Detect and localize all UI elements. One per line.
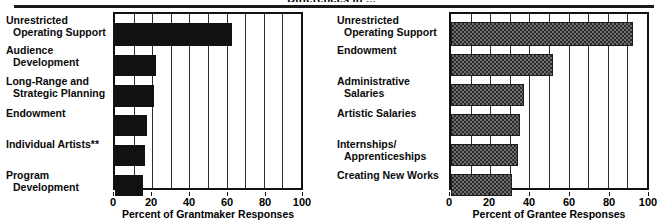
category-label-line: Long-Range and: [6, 75, 89, 87]
axis-tick-label: 60: [563, 196, 575, 208]
axis-tick-label: 0: [446, 196, 452, 208]
category-label-line: Operating Support: [6, 26, 106, 38]
bar: [451, 114, 520, 136]
category-label: Artistic Salaries: [337, 107, 416, 119]
category-label: Long-Range andStrategic Planning: [6, 75, 105, 100]
axis-tick-label: 40: [183, 196, 195, 208]
bar: [115, 23, 232, 46]
category-label-line: Apprenticeships: [337, 150, 426, 162]
category-label-line: Operating Support: [337, 26, 437, 38]
category-label-line: Strategic Planning: [6, 87, 105, 99]
category-label: Internships/Apprenticeships: [337, 138, 426, 163]
axis-tick-label: 0: [110, 196, 116, 208]
bar: [115, 175, 143, 196]
bar: [115, 55, 156, 76]
axis-tick-label: 80: [603, 196, 615, 208]
category-label: ProgramDevelopment: [6, 169, 79, 194]
axis-tick-label: 100: [639, 196, 657, 208]
bar: [451, 22, 633, 46]
category-label: UnrestrictedOperating Support: [337, 14, 437, 39]
bars-left: [115, 14, 301, 188]
axis-tick-label: 80: [259, 196, 271, 208]
axis-tick-label: 100: [293, 196, 311, 208]
axis-tick-label: 20: [145, 196, 157, 208]
axis-tick-label: 40: [523, 196, 535, 208]
category-label-line: Development: [6, 56, 79, 68]
category-label: Endowment: [337, 44, 397, 56]
bar: [451, 144, 518, 166]
plot-area-left: [113, 12, 303, 190]
x-axis-title-left: Percent of Grantmaker Responses: [113, 208, 303, 220]
axis-tick-label: 20: [483, 196, 495, 208]
category-label: Endowment: [6, 107, 66, 119]
chart-panel-grantee: UnrestrictedOperating Support Endowment …: [331, 0, 663, 222]
bar: [115, 115, 147, 136]
category-label: AdministrativeSalaries: [337, 75, 410, 100]
figure-root: Differences in ... UnrestrictedOperating…: [0, 0, 663, 222]
category-label-line: Salaries: [337, 87, 410, 99]
category-label: UnrestrictedOperating Support: [6, 14, 106, 39]
chart-panel-grantmaker: UnrestrictedOperating Support AudienceDe…: [0, 0, 331, 222]
bar: [115, 85, 154, 107]
category-label-line: Unrestricted: [6, 14, 68, 26]
category-label-line: Development: [6, 181, 79, 193]
category-label-line: Internships/: [337, 138, 397, 150]
category-label: Individual Artists**: [6, 138, 99, 150]
category-label: Creating New Works: [337, 169, 439, 181]
bar: [115, 145, 145, 166]
category-label-line: Unrestricted: [337, 14, 399, 26]
plot-area-right: [449, 12, 649, 190]
category-label-line: Program: [6, 169, 49, 181]
category-label-line: Audience: [6, 44, 53, 56]
category-label-line: Administrative: [337, 75, 410, 87]
bar: [451, 174, 512, 196]
bar: [451, 54, 553, 76]
x-axis-title-right: Percent of Grantee Responses: [449, 208, 649, 220]
bars-right: [451, 14, 647, 188]
category-label: AudienceDevelopment: [6, 44, 79, 69]
bar: [451, 84, 524, 106]
axis-tick-label: 60: [221, 196, 233, 208]
